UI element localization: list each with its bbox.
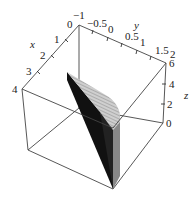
x-tick-2: 2 (40, 49, 46, 61)
box-edge-z-axis (163, 63, 166, 123)
box-edge-left-vertical (22, 89, 28, 150)
x-axis-label: x (29, 38, 35, 50)
z-tick-4: 4 (169, 78, 175, 90)
box-edge-bottom-front-right (113, 123, 163, 189)
z-tick-2: 2 (167, 98, 173, 110)
y-tick-neg0-5: −0.5 (87, 17, 107, 29)
y-tick-1-5: 1.5 (155, 44, 169, 56)
z-axis-label: z (183, 89, 189, 101)
box-edge-top-front-right (113, 63, 166, 128)
3d-plot: 0 1 2 3 4 x −1 −0.5 0 0.5 1 1.5 2 y 6 4 … (0, 0, 195, 198)
y-tick-0: 0 (108, 23, 114, 35)
y-tick-neg1: −1 (73, 9, 85, 21)
solid-side-face (113, 122, 120, 189)
y-tick-1: 1 (140, 36, 146, 48)
z-tick-6: 6 (169, 57, 175, 69)
y-axis-label: y (133, 19, 139, 31)
box-edge-y-axis (79, 25, 166, 63)
x-tick-1: 1 (54, 33, 60, 45)
x-tick-3: 3 (26, 65, 32, 77)
z-tick-0: 0 (166, 117, 172, 129)
y-tick-0-5: 0.5 (125, 30, 139, 42)
box-edge-back-bottom-left (28, 108, 79, 150)
x-tick-4: 4 (12, 83, 18, 95)
